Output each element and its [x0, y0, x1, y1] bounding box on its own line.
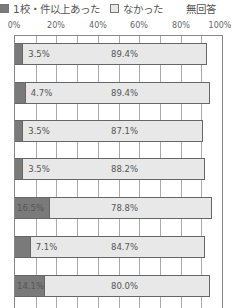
bar-segment-yes — [15, 83, 25, 103]
legend-item-yes: 1校・件以上あった — [0, 1, 100, 16]
tick-label: 80% — [172, 21, 190, 30]
bar-row: 3.5%87.1% — [15, 120, 203, 142]
x-axis-tick-labels: 0% 20% 40% 60% 80% 100% — [0, 21, 232, 33]
tick-label: 60% — [130, 21, 148, 30]
bar-row: 7.1%84.7% — [15, 236, 205, 258]
data-label-no: 80.0% — [111, 281, 138, 291]
bar-segment-yes — [15, 44, 22, 64]
data-label-no: 87.1% — [111, 126, 138, 136]
bar-row: 3.5%89.4% — [15, 43, 207, 65]
legend-item-noanswer: 無回答 — [173, 1, 216, 16]
data-label-no: 89.4% — [111, 49, 138, 59]
tick-label: 20% — [47, 21, 65, 30]
plot-area: 3.5%89.4%4.7%89.4%3.5%87.1%3.5%88.2%16.5… — [14, 35, 223, 308]
data-label-yes: 3.5% — [28, 126, 50, 136]
bar-row: 16.5%78.8% — [15, 197, 212, 219]
data-label-no: 84.7% — [111, 242, 138, 252]
data-label-no: 89.4% — [111, 88, 138, 98]
legend-label-noanswer: 無回答 — [186, 1, 216, 16]
data-label-yes: 14.1% — [17, 281, 44, 291]
bar-row: 14.1%80.0% — [15, 275, 210, 297]
data-label-yes: 3.5% — [28, 49, 50, 59]
tick-label: 100% — [209, 21, 232, 30]
legend: 1校・件以上あった なかった 無回答 — [0, 1, 226, 15]
legend-item-no: なかった — [110, 1, 163, 16]
bar-segment-yes — [15, 237, 30, 257]
legend-swatch-no — [110, 4, 119, 13]
legend-label-yes: 1校・件以上あった — [13, 1, 100, 16]
data-label-yes: 4.7% — [31, 88, 53, 98]
data-label-no: 88.2% — [111, 164, 138, 174]
data-label-yes: 7.1% — [36, 242, 58, 252]
legend-label-no: なかった — [123, 1, 163, 16]
bar-row: 3.5%88.2% — [15, 158, 205, 180]
data-label-yes: 3.5% — [28, 164, 50, 174]
tick-label: 40% — [89, 21, 107, 30]
legend-swatch-noanswer — [173, 4, 182, 13]
data-label-no: 78.8% — [111, 203, 138, 213]
bar-segment-yes — [15, 159, 22, 179]
bar-row: 4.7%89.4% — [15, 82, 210, 104]
bar-segment-yes — [15, 121, 22, 141]
data-label-yes: 16.5% — [17, 203, 44, 213]
tick-label: 0% — [8, 21, 21, 30]
legend-swatch-yes — [0, 4, 9, 13]
